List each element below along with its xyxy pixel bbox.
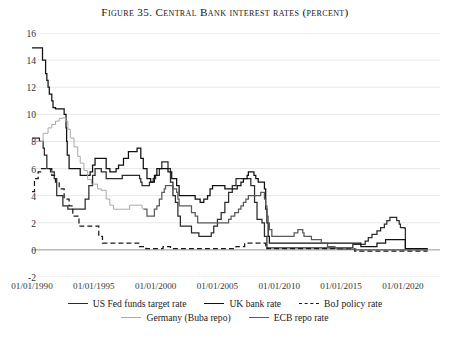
figure-container: Figure 35. Central Bank interest rates (… [0,0,450,349]
x-axis-tick: 01/01/1990 [11,281,52,291]
y-axis-tick: 6 [8,163,36,174]
legend-label-ecb: ECB repo rate [274,312,329,323]
legend-label-us: US Fed funds target rate [93,298,187,309]
legend-item-ecb[interactable]: ECB repo rate [249,312,329,323]
x-axis-tick: 01/01/2010 [259,281,300,291]
legend-label-boj: BoJ policy rate [324,298,382,309]
legend-row: Germany (Buba repo)ECB repo rate [0,310,450,324]
legend-label-uk: UK bank rate [229,298,281,309]
x-axis-tick: 01/01/2020 [382,281,423,291]
x-axis-tick: 01/01/2000 [135,281,176,291]
legend-swatch-ecb [249,317,269,318]
y-axis-tick: 14 [8,55,36,66]
legend-item-uk[interactable]: UK bank rate [204,298,281,309]
x-axis-tick: 01/01/1995 [73,281,114,291]
x-axis-tick: 01/01/2015 [320,281,361,291]
plot-area [32,33,440,277]
legend-item-boj[interactable]: BoJ policy rate [299,298,382,309]
y-axis-tick: 2 [8,217,36,228]
y-axis-tick: 0 [8,244,36,255]
chart-legend: US Fed funds target rateUK bank rateBoJ … [0,296,450,324]
legend-item-de[interactable]: Germany (Buba repo) [121,312,230,323]
legend-item-us[interactable]: US Fed funds target rate [68,298,187,309]
legend-swatch-boj [299,303,319,304]
legend-swatch-de [121,317,141,318]
y-axis-tick: 12 [8,82,36,93]
series-lines [32,33,440,277]
chart-title: Figure 35. Central Bank interest rates (… [0,6,450,18]
y-axis-tick: 8 [8,136,36,147]
x-axis-tick: 01/01/2005 [197,281,238,291]
series-line-us [32,138,428,248]
legend-label-de: Germany (Buba repo) [146,312,230,323]
legend-swatch-uk [204,303,224,304]
legend-row: US Fed funds target rateUK bank rateBoJ … [0,296,450,310]
series-line-uk [32,48,428,249]
y-axis-tick: 4 [8,190,36,201]
y-axis-tick: 10 [8,109,36,120]
series-line-de [32,118,142,210]
legend-swatch-us [68,303,88,304]
y-axis-tick: 16 [8,28,36,39]
